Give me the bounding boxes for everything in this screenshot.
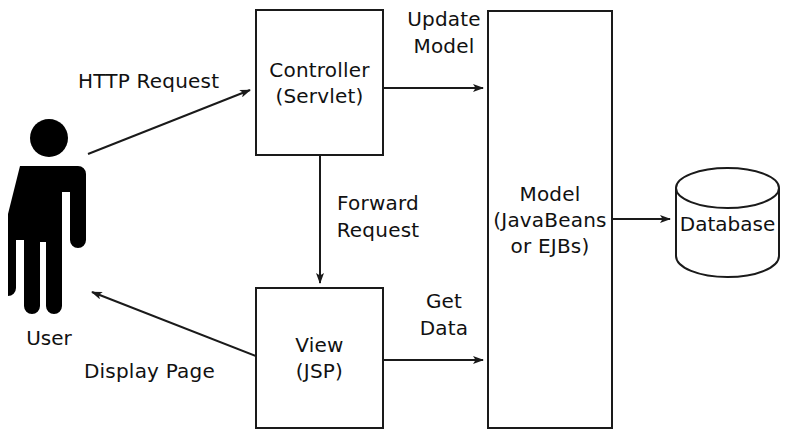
controller-node[interactable]: Controller (Servlet)	[255, 9, 384, 156]
mvc-architecture-diagram: User Controller (Servlet) View (JSP) Mod…	[0, 0, 785, 443]
user-label: User	[8, 326, 90, 350]
forward-request-line2: Request	[332, 217, 424, 244]
update-model-edge-label: Update Model	[398, 6, 490, 60]
controller-label-line2: (Servlet)	[275, 83, 363, 109]
get-data-line1: Get	[404, 288, 484, 315]
edge-view-to-user	[92, 292, 256, 356]
update-model-line1: Update	[398, 6, 490, 33]
model-label-line1: Model	[519, 181, 580, 207]
view-node[interactable]: View (JSP)	[255, 287, 384, 429]
edge-user-to-controller	[88, 90, 250, 154]
database-label: Database	[674, 212, 781, 236]
view-label-line2: (JSP)	[296, 358, 343, 384]
model-label-line2: (JavaBeans	[493, 207, 606, 233]
forward-request-line1: Forward	[332, 190, 424, 217]
get-data-edge-label: Get Data	[404, 288, 484, 342]
controller-label-line1: Controller	[269, 57, 369, 83]
display-page-line1: Display Page	[84, 358, 206, 385]
http-request-line1: HTTP Request	[78, 68, 208, 95]
person-icon	[8, 118, 90, 318]
get-data-line2: Data	[404, 315, 484, 342]
forward-request-edge-label: Forward Request	[332, 190, 424, 244]
display-page-edge-label: Display Page	[84, 358, 206, 385]
model-node[interactable]: Model (JavaBeans or EJBs)	[487, 10, 613, 429]
http-request-edge-label: HTTP Request	[78, 68, 208, 95]
update-model-line2: Model	[398, 33, 490, 60]
model-label-line3: or EJBs)	[511, 233, 590, 259]
view-label-line1: View	[295, 332, 343, 358]
